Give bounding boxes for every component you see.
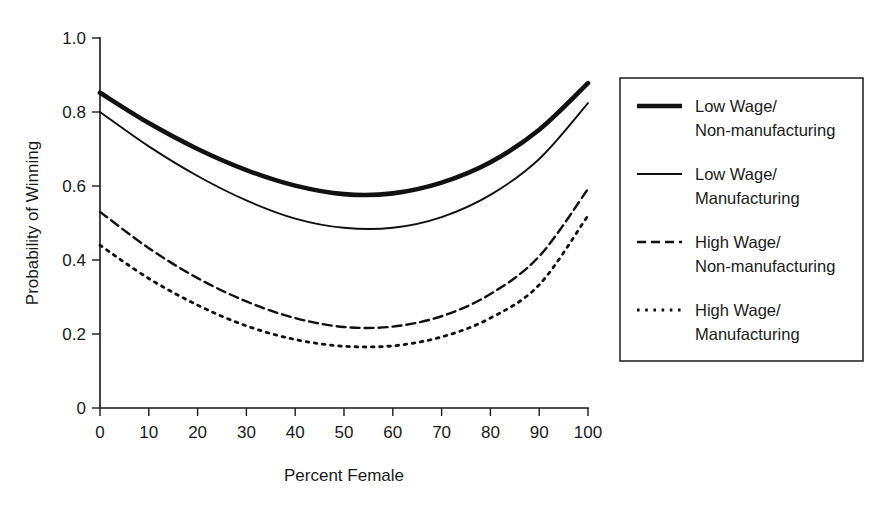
series-line-2 (100, 189, 588, 328)
y-tick-label: 0 (77, 399, 86, 418)
y-tick-label: 0.4 (62, 251, 86, 270)
x-tick-label: 60 (383, 423, 402, 442)
y-tick-label: 0.2 (62, 325, 86, 344)
legend-label-line1: High Wage/ (695, 233, 781, 251)
axis-spines (100, 38, 588, 408)
legend-label-line2: Non-manufacturing (695, 121, 835, 139)
data-series-group (100, 83, 588, 347)
x-tick-label: 40 (286, 423, 305, 442)
tick-labels-group: 00.20.40.60.81.00102030405060708090100 (62, 29, 602, 442)
x-tick-label: 100 (574, 423, 602, 442)
legend-label-line2: Manufacturing (695, 325, 800, 343)
y-axis-title: Probability of Winning (23, 141, 42, 305)
x-tick-label: 30 (237, 423, 256, 442)
chart-figure: 00.20.40.60.81.00102030405060708090100 P… (0, 0, 875, 509)
y-tick-label: 0.8 (62, 103, 86, 122)
axes-group (100, 38, 588, 408)
legend-label-line1: High Wage/ (695, 301, 781, 319)
x-tick-label: 70 (432, 423, 451, 442)
legend-label-line1: Low Wage/ (695, 165, 777, 183)
x-axis-title: Percent Female (284, 466, 404, 485)
chart-canvas: 00.20.40.60.81.00102030405060708090100 P… (0, 0, 875, 509)
x-tick-label: 90 (530, 423, 549, 442)
x-tick-label: 0 (95, 423, 104, 442)
x-tick-label: 50 (335, 423, 354, 442)
y-tick-label: 0.6 (62, 177, 86, 196)
series-line-1 (100, 103, 588, 229)
legend-label-line2: Non-manufacturing (695, 257, 835, 275)
legend-label-line1: Low Wage/ (695, 97, 777, 115)
x-tick-label: 80 (481, 423, 500, 442)
legend-label-line2: Manufacturing (695, 189, 800, 207)
y-tick-label: 1.0 (62, 29, 86, 48)
x-tick-label: 20 (188, 423, 207, 442)
chart-legend: Low Wage/Non-manufacturingLow Wage/Manuf… (620, 78, 863, 361)
x-tick-label: 10 (139, 423, 158, 442)
